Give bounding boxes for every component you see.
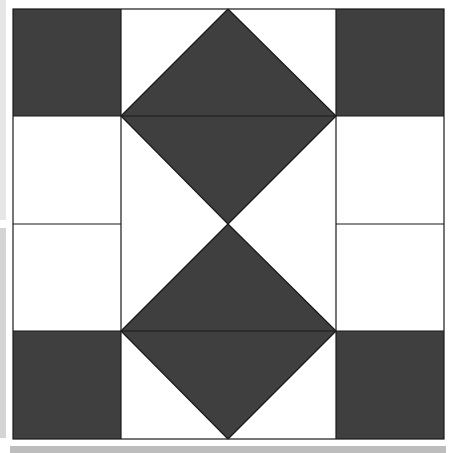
corner-square-bottom-left (13, 331, 121, 439)
quilt-block-diagram (0, 0, 456, 453)
corner-square-bottom-right (336, 331, 444, 439)
corner-square-top-right (336, 9, 444, 116)
corner-square-top-left (13, 9, 121, 116)
